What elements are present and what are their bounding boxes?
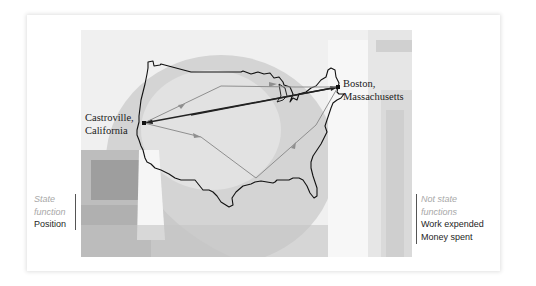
right-divider (416, 194, 417, 244)
background-photo (81, 30, 412, 257)
not-state-function-item: Money spent (421, 231, 501, 244)
state-function-item: Position (34, 218, 74, 231)
destination-city: Boston, (343, 77, 404, 90)
state-function-annotation: State function Position (34, 193, 74, 231)
category-label-line2: functions (421, 206, 501, 219)
us-map-diagram (81, 30, 412, 257)
destination-label: Boston, Massachusetts (343, 77, 404, 103)
category-label-line1: State (34, 193, 74, 206)
category-label-line1: Not state (421, 193, 501, 206)
category-label-line2: function (34, 206, 74, 219)
not-state-function-annotation: Not state functions Work expended Money … (421, 193, 501, 243)
destination-state: Massachusetts (343, 90, 404, 103)
origin-city: Castroville, (85, 111, 134, 124)
origin-label: Castroville, California (85, 111, 134, 137)
not-state-function-item: Work expended (421, 218, 501, 231)
origin-state: California (85, 124, 134, 137)
left-divider (75, 194, 76, 230)
